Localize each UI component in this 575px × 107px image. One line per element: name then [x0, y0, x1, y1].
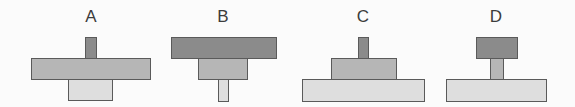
figure-b-bottom-stem — [218, 79, 229, 102]
figure-c-middle-block — [331, 58, 397, 80]
figure-d-label: D — [481, 7, 511, 27]
figure-a-middle-bar — [31, 58, 151, 80]
figure-a-bottom-block — [68, 79, 113, 101]
figure-a-top-stem — [85, 37, 97, 59]
figure-d-top-block — [476, 37, 518, 59]
figure-c-top-stem — [358, 37, 369, 59]
figure-b-label: B — [208, 7, 238, 27]
figure-c-bottom-base — [302, 79, 425, 102]
figure-d-middle-stem — [490, 58, 504, 80]
figure-b-middle-block — [198, 58, 248, 80]
figure-a-label: A — [76, 7, 106, 27]
figure-d-bottom-base — [446, 79, 547, 102]
figure-b-top-bar — [171, 37, 277, 59]
figure-c-label: C — [348, 7, 378, 27]
